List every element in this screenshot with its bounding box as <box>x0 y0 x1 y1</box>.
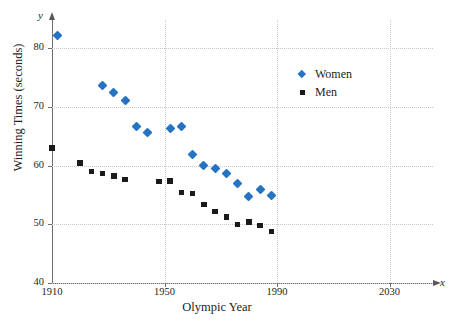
x-axis-variable-label: x <box>440 276 445 288</box>
data-point-men <box>89 169 95 175</box>
data-point-men <box>257 223 263 229</box>
x-tick-label: 1950 <box>143 286 187 297</box>
diamond-marker-icon <box>296 71 308 77</box>
gridline-horizontal <box>52 224 433 225</box>
y-tick-mark <box>48 48 52 49</box>
x-tick-label: 1990 <box>255 286 299 297</box>
data-point-women <box>109 88 119 98</box>
chart-legend: WomenMen <box>296 66 352 102</box>
data-point-men <box>77 160 83 166</box>
data-point-women <box>143 127 153 137</box>
data-point-men <box>190 191 196 197</box>
data-point-women <box>98 81 108 91</box>
y-axis-arrow-icon <box>49 12 55 20</box>
data-point-women <box>176 122 186 132</box>
legend-label: Men <box>315 85 337 100</box>
data-point-men <box>122 177 128 183</box>
data-point-women <box>165 124 175 134</box>
data-point-men <box>212 209 218 215</box>
legend-item-women: Women <box>296 66 352 82</box>
data-point-men <box>100 171 106 177</box>
data-point-men <box>167 178 173 184</box>
data-point-men <box>49 145 55 151</box>
legend-item-men: Men <box>296 84 352 100</box>
gridline-horizontal <box>52 283 433 284</box>
data-point-women <box>244 191 254 201</box>
legend-label: Women <box>315 67 352 82</box>
data-point-men <box>201 202 207 208</box>
y-tick-mark <box>48 107 52 108</box>
data-point-men <box>111 173 117 179</box>
scatter-chart: y x 40506070801910195019902030 Winning T… <box>0 0 468 329</box>
y-axis-line <box>52 20 53 283</box>
gridline-horizontal <box>52 166 433 167</box>
data-point-women <box>120 96 130 106</box>
data-point-men <box>246 219 252 225</box>
data-point-women <box>233 178 243 188</box>
gridline-horizontal <box>52 48 433 49</box>
y-tick-label: 50 <box>18 217 44 228</box>
gridline-horizontal <box>52 107 433 108</box>
gridline-vertical <box>390 20 391 283</box>
data-point-men <box>179 190 185 196</box>
y-axis-variable-label: y <box>38 9 43 21</box>
y-tick-mark <box>48 166 52 167</box>
data-point-men <box>156 179 162 185</box>
x-axis-title: Olympic Year <box>152 300 282 315</box>
gridline-vertical <box>165 20 166 283</box>
data-point-women <box>221 169 231 179</box>
data-point-women <box>255 185 265 195</box>
gridline-vertical <box>277 20 278 283</box>
data-point-women <box>53 30 63 40</box>
data-point-men <box>269 229 275 235</box>
y-tick-mark <box>48 283 52 284</box>
x-tick-label: 2030 <box>368 286 412 297</box>
data-point-women <box>188 150 198 160</box>
data-point-women <box>131 121 141 131</box>
x-tick-label: 1910 <box>30 286 74 297</box>
data-point-men <box>224 214 230 220</box>
data-point-women <box>266 191 276 201</box>
y-tick-mark <box>48 224 52 225</box>
y-axis-title: Winning Times (seconds) <box>11 23 26 193</box>
square-marker-icon <box>296 90 308 95</box>
data-point-women <box>199 161 209 171</box>
data-point-men <box>235 222 241 228</box>
